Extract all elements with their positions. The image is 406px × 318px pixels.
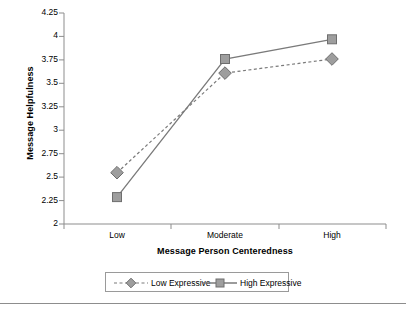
series-high-expressive	[113, 35, 337, 202]
diamond-marker-icon	[114, 277, 148, 289]
data-point-marker-diamond	[326, 53, 339, 66]
chart-legend: Low Expressive High Expressive	[105, 272, 289, 292]
data-point-marker-diamond	[219, 67, 232, 80]
data-point-marker-square	[221, 55, 230, 64]
bottom-divider	[0, 303, 406, 304]
chart-figure: Message Helpfulness 2 2.25 2.5 2.75 3 3.…	[0, 0, 406, 318]
legend-label: High Expressive	[240, 278, 301, 288]
x-tick-label-low: Low	[72, 230, 162, 240]
square-marker-icon	[203, 277, 237, 289]
legend-item-high-expressive: High Expressive	[203, 276, 301, 290]
x-tick-label-moderate: Moderate	[180, 230, 270, 240]
x-axis-ticks	[64, 224, 386, 229]
x-axis-title: Message Person Centeredness	[64, 246, 386, 256]
data-point-marker-square	[113, 193, 122, 202]
data-point-marker-square	[328, 35, 337, 44]
plot-area	[0, 0, 406, 318]
legend-item-low-expressive: Low Expressive	[114, 276, 211, 290]
legend-label: Low Expressive	[151, 278, 211, 288]
x-tick-label-high: High	[287, 230, 377, 240]
y-axis-ticks	[59, 13, 64, 224]
series-low-expressive	[111, 53, 339, 179]
